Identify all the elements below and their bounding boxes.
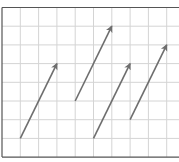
grid-diagram (0, 0, 179, 162)
vector-grid-figure (0, 0, 179, 162)
grid-lines (2, 8, 179, 158)
